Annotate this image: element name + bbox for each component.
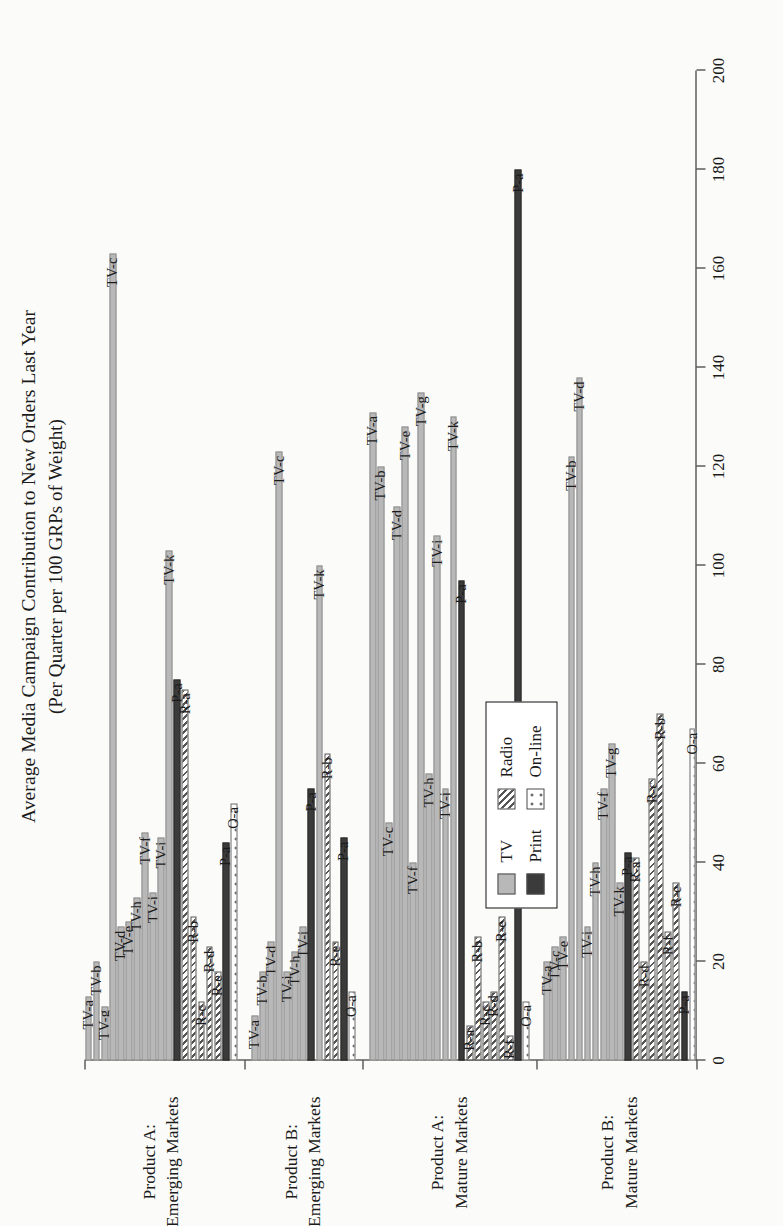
bar-label: R-a [627, 857, 644, 882]
bar-tv-tv-d [393, 506, 400, 1060]
bar-print-p-a2 [340, 837, 347, 1060]
axis-tick [696, 465, 705, 466]
bar-tv-tv-b [568, 456, 575, 1060]
bar-label: O-a [517, 1001, 534, 1027]
axis-tick-label: 0 [708, 1056, 728, 1065]
chart-subtitle: (Per Quarter per 100 GRPs of Weight) [42, 0, 69, 1132]
bar-print-p-a2 [222, 842, 229, 1060]
axis-tick [696, 762, 705, 763]
bar-label: R-e [667, 882, 684, 907]
bar-label: P-a [335, 837, 352, 860]
bar-label: TV-d [570, 377, 587, 411]
bar-label: TV-f [136, 832, 153, 864]
bar-tv-tv-c [385, 822, 392, 1060]
category-axis-cap [84, 1060, 85, 1069]
axis-tick-label: 160 [708, 255, 728, 281]
axis-tick [696, 168, 705, 169]
bar-label: P-a [509, 169, 526, 192]
bar-radio-r-a [181, 689, 188, 1060]
bar-label: R-e [493, 916, 510, 941]
bar-tv-tv-h [425, 773, 432, 1060]
group-divider-tick [244, 1060, 245, 1069]
bar-label: R-b [469, 936, 486, 962]
bar-on-line-o-a [230, 803, 237, 1060]
category-axis-cap [696, 1060, 697, 1069]
axis-tick [696, 267, 705, 268]
bar-label: O-a [343, 991, 360, 1017]
legend-swatch-online [526, 788, 544, 809]
bar-tv-tv-k [450, 417, 457, 1061]
axis-tick [696, 861, 705, 862]
axis-tick-label: 140 [708, 354, 728, 380]
legend-swatch-radio [497, 788, 515, 809]
legend-label-print: Print [525, 820, 545, 862]
bar-label: R-b [651, 714, 668, 740]
axis-tick-label: 40 [708, 854, 728, 871]
group-label: Product A:Mature Markets [425, 1096, 472, 1208]
group-label-line1: Product B: [279, 1096, 303, 1226]
bar-radio-r-b [324, 753, 331, 1060]
group-label: Product B:Mature Markets [596, 1096, 643, 1208]
bar-label: O-a [225, 803, 242, 829]
bar-tv-tv-i [157, 837, 164, 1060]
bar-label: TV-i [428, 535, 445, 566]
axis-tick-label: 80 [708, 656, 728, 673]
group-divider-tick [536, 1060, 537, 1069]
legend-label-radio: Radio [496, 716, 516, 777]
bar-radio-r-e [672, 882, 679, 1060]
chart-legend: TVRadioPrintOn-line [485, 701, 557, 908]
group-label-line2: Mature Markets [619, 1096, 643, 1208]
axis-tick [696, 366, 705, 367]
bar-print-p-a [307, 788, 314, 1060]
bar-label: TV-g [412, 392, 429, 426]
group-label-line1: Product A: [137, 1096, 161, 1226]
bar-on-line-o-a [689, 728, 696, 1060]
bar-label: TV-a [364, 412, 381, 445]
bar-label: R-d [201, 946, 218, 972]
legend-label-online: On-line [525, 716, 545, 777]
bar-tv-tv-k [316, 565, 323, 1060]
axis-tick [696, 564, 705, 565]
bar-print-p-a [624, 852, 631, 1060]
axis-tick-label: 60 [708, 755, 728, 772]
group-label: Product A:Emerging Markets [137, 1096, 184, 1226]
bar-label: TV-c [270, 451, 287, 484]
bar-tv-tv-c [275, 451, 282, 1060]
axis-tick [696, 960, 705, 961]
legend-label-tv: TV [496, 820, 516, 862]
bar-label: TV-c [104, 253, 121, 286]
group-label: Product B:Emerging Markets [279, 1096, 326, 1226]
bar-print-p-a2 [514, 169, 521, 1060]
bar-label: TV-e [396, 426, 413, 459]
axis-tick-label: 120 [708, 453, 728, 479]
bar-label: TV-g [603, 743, 620, 777]
legend-swatch-print [526, 873, 544, 894]
bar-radio-r-a [632, 857, 639, 1060]
bar-label: TV-k [310, 565, 327, 599]
legend-swatch-tv [497, 873, 515, 894]
bar-label: R-b [319, 753, 336, 779]
bar-radio-r-b [656, 714, 663, 1061]
bar-print-p-a [458, 580, 465, 1060]
chart-title: Average Media Campaign Contribution to N… [14, 0, 69, 1132]
bar-label: TV-b [372, 466, 389, 500]
group-label-line1: Product B: [596, 1096, 620, 1208]
bar-tv-tv-e [401, 426, 408, 1060]
axis-tick-label: 200 [708, 57, 728, 83]
axis-tick [696, 69, 705, 70]
bar-tv-tv-a [369, 412, 376, 1060]
group-label-line1: Product A: [425, 1096, 449, 1208]
chart-title-line1: Average Media Campaign Contribution to N… [14, 0, 42, 1132]
group-divider-tick [362, 1060, 363, 1069]
group-label-line2: Emerging Markets [303, 1096, 327, 1226]
group-label-line2: Emerging Markets [161, 1096, 185, 1226]
bar-tv-tv-g [417, 392, 424, 1060]
bar-radio-r-c [648, 778, 655, 1060]
bar-print-p-a [173, 679, 180, 1060]
bar-label: TV-k [444, 417, 461, 451]
bar-label: R-a [176, 689, 193, 714]
group-label-line2: Mature Markets [449, 1096, 473, 1208]
bar-tv-tv-j [442, 788, 449, 1060]
plot-area: 020406080100120140160180200 TV-aTV-bTV-g… [84, 70, 696, 1060]
